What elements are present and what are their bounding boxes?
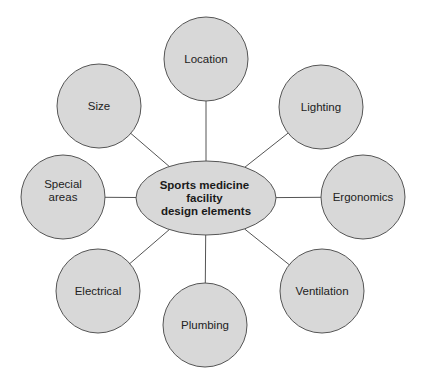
- center-label-line-1: Sports medicine: [160, 179, 249, 191]
- node-label-line: Electrical: [75, 285, 122, 297]
- node-label-line: Ergonomics: [333, 191, 394, 203]
- node-label-line: Lighting: [301, 101, 341, 113]
- node-label-electrical: Electrical: [75, 285, 122, 297]
- center-label-line-3: design elements: [161, 205, 251, 217]
- node-label-line: Plumbing: [181, 319, 229, 331]
- node-label-line: Location: [184, 53, 227, 65]
- node-label-lighting: Lighting: [301, 101, 341, 113]
- node-size: Size: [57, 64, 141, 148]
- node-special-areas: Specialareas: [21, 155, 105, 239]
- node-label-plumbing: Plumbing: [181, 319, 229, 331]
- node-label-ergonomics: Ergonomics: [333, 191, 394, 203]
- node-label-size: Size: [88, 100, 110, 112]
- connector-lighting: [245, 133, 288, 167]
- connector-ventilation: [245, 229, 290, 265]
- node-electrical: Electrical: [56, 249, 140, 333]
- center-label-line-2: facility: [186, 192, 223, 204]
- node-label-line: Size: [88, 100, 110, 112]
- center-node: Sports medicine facility design elements: [136, 161, 276, 235]
- node-lighting: Lighting: [279, 65, 363, 149]
- node-label-line: Special: [44, 178, 82, 190]
- node-label-line: Ventilation: [295, 285, 348, 297]
- node-label-ventilation: Ventilation: [295, 285, 348, 297]
- node-label-special-areas: Specialareas: [44, 178, 82, 203]
- design-elements-diagram: LocationLightingErgonomicsVentilationPlu…: [0, 0, 423, 382]
- node-label-location: Location: [184, 53, 227, 65]
- node-ventilation: Ventilation: [280, 249, 364, 333]
- node-location: Location: [164, 17, 248, 101]
- node-ergonomics: Ergonomics: [321, 155, 405, 239]
- node-label-line: areas: [49, 191, 78, 203]
- connector-size: [131, 133, 170, 166]
- node-plumbing: Plumbing: [163, 283, 247, 367]
- connector-electrical: [130, 230, 170, 264]
